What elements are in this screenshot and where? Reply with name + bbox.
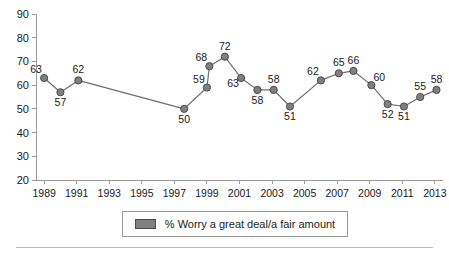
x-axis-tick-label: 1993: [98, 187, 122, 199]
data-point-label: 63: [30, 63, 42, 75]
x-axis-ticks: [44, 180, 435, 184]
x-axis-tick-label: 1991: [65, 187, 89, 199]
x-axis-tick-label: 2005: [293, 187, 317, 199]
data-point-marker: [181, 105, 188, 112]
y-axis-tick-label: 20: [17, 174, 29, 186]
y-axis-tick-label: 60: [17, 79, 29, 91]
x-axis-tick-label: 2011: [391, 187, 414, 199]
data-point-marker: [57, 89, 64, 96]
data-point-marker: [384, 101, 391, 108]
x-axis-tick-label: 2003: [260, 187, 284, 199]
data-point-label: 58: [431, 73, 443, 85]
data-point-label: 51: [284, 110, 296, 122]
line-chart: 9080706050403020 19891991199319951997199…: [0, 0, 449, 254]
x-axis-tick-labels: 1989199119931995199719992001200320052007…: [32, 187, 446, 199]
bottom-divider: [16, 247, 433, 248]
data-point-marker: [254, 86, 261, 93]
data-point-label: 68: [196, 51, 208, 63]
data-point-label: 58: [252, 94, 264, 106]
series-point-labels: 63576250596872635858516265666052515558: [30, 40, 442, 125]
legend-swatch-icon: [135, 219, 156, 229]
y-axis-tick-label: 30: [17, 150, 29, 162]
x-axis-tick-label: 2009: [358, 187, 382, 199]
x-axis: 1989199119931995199719992001200320052007…: [32, 180, 446, 199]
y-axis-tick-labels: 9080706050403020: [17, 8, 29, 186]
data-point-label: 63: [227, 77, 239, 89]
data-point-label: 72: [219, 40, 231, 52]
data-point-marker: [417, 93, 424, 100]
data-point-marker: [221, 53, 228, 60]
data-point-label: 59: [193, 73, 205, 85]
x-axis-tick-label: 1989: [32, 187, 56, 199]
x-axis-tick-label: 2013: [423, 187, 447, 199]
x-axis-tick-label: 1995: [130, 187, 154, 199]
x-axis-tick-label: 2007: [326, 187, 350, 199]
y-axis-ticks: [32, 14, 36, 180]
data-point-marker: [433, 86, 440, 93]
data-point-label: 60: [374, 71, 386, 83]
y-axis-tick-label: 40: [17, 127, 29, 139]
data-point-marker: [335, 70, 342, 77]
data-point-label: 62: [307, 65, 319, 77]
data-point-label: 62: [72, 63, 84, 75]
data-point-label: 55: [414, 80, 426, 92]
x-axis-tick-label: 1997: [163, 187, 187, 199]
data-point-marker: [270, 86, 277, 93]
data-point-marker: [400, 103, 407, 110]
data-point-label: 65: [333, 56, 345, 68]
data-point-label: 52: [382, 108, 394, 120]
y-axis: 9080706050403020: [17, 8, 36, 186]
x-axis-tick-label: 1999: [195, 187, 219, 199]
data-point-marker: [75, 77, 82, 84]
data-point-marker: [317, 77, 324, 84]
data-point-label: 50: [178, 113, 190, 125]
y-axis-tick-label: 70: [17, 55, 29, 67]
data-point-marker: [350, 67, 357, 74]
chart-legend: % Worry a great deal/a fair amount: [122, 211, 348, 237]
y-axis-tick-label: 50: [17, 103, 29, 115]
data-point-label: 57: [55, 96, 67, 108]
data-point-label: 58: [268, 73, 280, 85]
data-point-label: 66: [348, 54, 360, 66]
legend-entry-label: % Worry a great deal/a fair amount: [165, 218, 335, 231]
y-axis-tick-label: 90: [17, 8, 29, 20]
data-point-marker: [286, 103, 293, 110]
plot-area: 9080706050403020 19891991199319951997199…: [0, 0, 449, 200]
data-point-label: 51: [398, 110, 410, 122]
y-axis-tick-label: 80: [17, 32, 29, 44]
x-axis-tick-label: 2001: [228, 187, 252, 199]
data-point-marker: [203, 84, 210, 91]
data-point-marker: [41, 74, 48, 81]
plot-svg: 9080706050403020 19891991199319951997199…: [0, 0, 449, 200]
data-point-marker: [206, 63, 213, 70]
